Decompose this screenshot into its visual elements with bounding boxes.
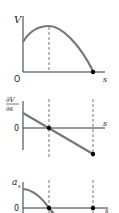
origin-label: 0 <box>14 124 19 133</box>
end-point <box>91 206 95 210</box>
zero-point <box>91 70 95 74</box>
zero-crossing-point <box>47 206 51 210</box>
origin-label: 0 <box>14 204 19 213</box>
y-axis-label-subscript: s <box>18 183 21 189</box>
zero-crossing-point <box>47 126 51 130</box>
panel-acceleration: a s 0 s <box>12 177 109 213</box>
end-point <box>91 152 95 156</box>
diagram-canvas: V O s ∂V ∂s 0 s a s 0 s <box>0 0 119 213</box>
acceleration-curve <box>23 189 56 213</box>
gradient-line <box>23 113 93 154</box>
y-label-numerator: ∂V <box>6 96 16 104</box>
panel-gradient: ∂V ∂s 0 s <box>6 96 107 157</box>
origin-label: O <box>14 75 20 84</box>
y-axis-label: V <box>14 14 23 25</box>
potential-curve <box>23 26 93 71</box>
x-axis-label: s <box>103 119 107 128</box>
y-axis-label: a <box>12 177 17 187</box>
x-axis-label: s <box>103 75 107 84</box>
x-axis-label: s <box>105 207 109 213</box>
panel-potential: V O s <box>14 14 107 84</box>
y-label-denominator: ∂s <box>6 105 14 113</box>
